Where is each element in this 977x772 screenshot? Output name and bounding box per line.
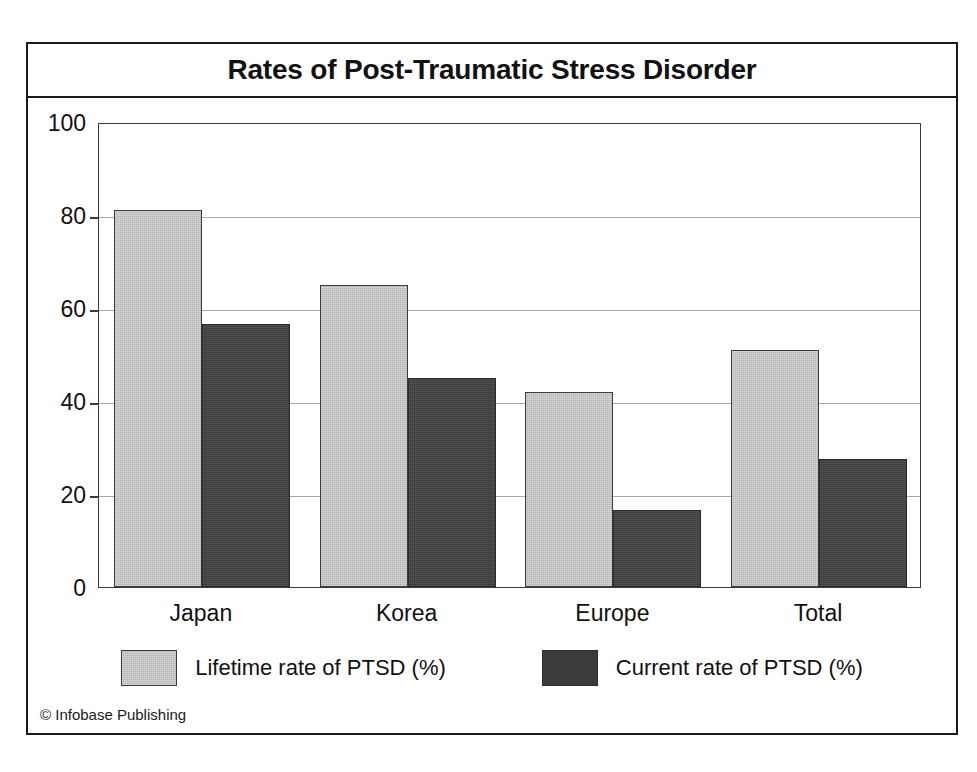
y-axis-tick-label: 20 (60, 482, 86, 509)
y-axis-tick-label: 40 (60, 389, 86, 416)
chart-screenshot: Rates of Post-Traumatic Stress Disorder … (0, 0, 977, 772)
legend-swatch (121, 650, 177, 686)
bar (114, 210, 202, 587)
bar (819, 459, 907, 587)
plot-region: 020406080100 JapanKoreaEuropeTotal Lifet… (28, 98, 956, 737)
legend-label: Current rate of PTSD (%) (616, 655, 863, 681)
legend-item: Lifetime rate of PTSD (%) (121, 650, 446, 686)
legend-label: Lifetime rate of PTSD (%) (195, 655, 446, 681)
y-tick-mark (90, 496, 99, 498)
y-tick-mark (90, 403, 99, 405)
y-axis-tick-label: 0 (73, 575, 86, 602)
page-title: Rates of Post-Traumatic Stress Disorder (227, 54, 756, 86)
bar (202, 324, 290, 587)
y-tick-mark (90, 310, 99, 312)
x-axis-category-label: Japan (170, 600, 233, 627)
y-axis-tick-label: 80 (60, 203, 86, 230)
bar (320, 285, 408, 587)
figure-frame: Rates of Post-Traumatic Stress Disorder … (26, 42, 958, 735)
bar (525, 392, 613, 587)
x-axis-labels: JapanKoreaEuropeTotal (98, 600, 921, 634)
plot-area (98, 123, 921, 588)
title-band: Rates of Post-Traumatic Stress Disorder (28, 44, 956, 98)
y-axis-tick-label: 60 (60, 296, 86, 323)
y-tick-mark (90, 217, 99, 219)
y-axis-labels: 020406080100 (28, 98, 86, 737)
bar (731, 350, 819, 587)
bar (408, 378, 496, 587)
legend-swatch (542, 650, 598, 686)
x-axis-category-label: Korea (376, 600, 437, 627)
legend-item: Current rate of PTSD (%) (542, 650, 863, 686)
y-axis-tick-label: 100 (48, 110, 86, 137)
x-axis-category-label: Europe (575, 600, 649, 627)
chart-legend: Lifetime rate of PTSD (%)Current rate of… (28, 650, 956, 686)
x-axis-category-label: Total (794, 600, 843, 627)
copyright-credit: © Infobase Publishing (40, 706, 186, 723)
bars-layer (99, 124, 920, 587)
bar (613, 510, 701, 587)
